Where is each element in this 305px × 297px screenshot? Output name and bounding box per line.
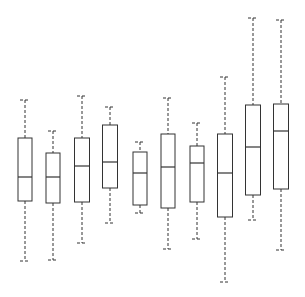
box-9	[246, 18, 261, 220]
box-3	[75, 96, 90, 243]
iqr-box	[161, 134, 175, 208]
iqr-box	[190, 146, 204, 202]
box-10	[274, 20, 289, 250]
box-5	[133, 142, 147, 213]
box-plot	[0, 0, 305, 297]
iqr-box	[218, 134, 233, 217]
iqr-box	[18, 138, 32, 201]
iqr-box	[133, 152, 147, 205]
box-2	[46, 131, 60, 260]
iqr-box	[46, 153, 60, 203]
box-8	[218, 77, 233, 282]
iqr-box	[246, 105, 261, 195]
box-7	[190, 123, 204, 239]
iqr-box	[103, 125, 118, 188]
iqr-box	[75, 138, 90, 202]
iqr-box	[274, 104, 289, 189]
box-6	[161, 98, 175, 249]
box-1	[18, 100, 32, 261]
box-4	[103, 107, 118, 223]
